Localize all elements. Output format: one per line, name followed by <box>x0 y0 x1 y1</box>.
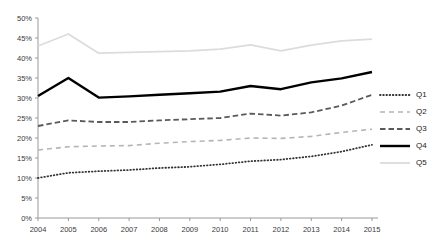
y-tick-label: 35% <box>17 74 32 83</box>
legend-swatch-q5-icon <box>378 158 412 168</box>
y-tick-label: 25% <box>17 114 32 123</box>
legend-swatch-q1-icon <box>378 90 412 100</box>
legend-swatch-q3-icon <box>378 124 412 134</box>
x-tick-label: 2004 <box>30 225 47 234</box>
x-tick-label: 2012 <box>273 225 290 234</box>
legend-item-q5[interactable]: Q5 <box>378 154 442 171</box>
legend-item-q3[interactable]: Q3 <box>378 120 442 137</box>
y-axis-tick-labels: 0%5%10%15%20%25%30%35%40%45%50% <box>17 14 32 223</box>
x-tick-label: 2005 <box>60 225 77 234</box>
y-tick-label: 10% <box>17 174 32 183</box>
legend-label: Q1 <box>416 90 427 100</box>
legend-label: Q4 <box>416 141 427 151</box>
y-axis-group: 0%5%10%15%20%25%30%35%40%45%50% <box>17 14 38 223</box>
data-series-group <box>38 34 372 178</box>
y-tick-label: 15% <box>17 154 32 163</box>
legend-label: Q2 <box>416 107 427 117</box>
series-line-q4 <box>38 72 372 98</box>
x-axis-tick-labels: 2004200520062007200820092010201120122013… <box>30 225 381 234</box>
series-line-q1 <box>38 145 372 178</box>
y-tick-label: 0% <box>21 214 32 223</box>
x-tick-label: 2007 <box>121 225 138 234</box>
x-tick-label: 2015 <box>364 225 381 234</box>
chart-legend: Q1Q2Q3Q4Q5 <box>378 86 442 171</box>
series-line-q2 <box>38 129 372 150</box>
x-tick-label: 2013 <box>303 225 320 234</box>
legend-swatch-q4-icon <box>378 141 412 151</box>
x-axis-group: 2004200520062007200820092010201120122013… <box>30 218 381 234</box>
chart-plot-area: 0%5%10%15%20%25%30%35%40%45%50% 20042005… <box>0 0 442 249</box>
x-tick-label: 2009 <box>181 225 198 234</box>
legend-label: Q5 <box>416 158 427 168</box>
legend-swatch-q2-icon <box>378 107 412 117</box>
x-tick-label: 2006 <box>90 225 107 234</box>
y-tick-label: 50% <box>17 14 32 23</box>
x-tick-label: 2011 <box>242 225 258 234</box>
legend-item-q4[interactable]: Q4 <box>378 137 442 154</box>
y-tick-label: 40% <box>17 54 32 63</box>
x-tick-label: 2010 <box>212 225 229 234</box>
y-tick-label: 30% <box>17 94 32 103</box>
x-tick-label: 2014 <box>333 225 350 234</box>
series-line-q5 <box>38 34 372 53</box>
y-tick-label: 20% <box>17 134 32 143</box>
legend-label: Q3 <box>416 124 427 134</box>
legend-item-q2[interactable]: Q2 <box>378 103 442 120</box>
y-tick-label: 5% <box>21 194 32 203</box>
x-tick-label: 2008 <box>151 225 168 234</box>
legend-item-q1[interactable]: Q1 <box>378 86 442 103</box>
y-tick-label: 45% <box>17 34 32 43</box>
series-line-q3 <box>38 95 372 126</box>
line-chart: 0%5%10%15%20%25%30%35%40%45%50% 20042005… <box>0 0 442 249</box>
